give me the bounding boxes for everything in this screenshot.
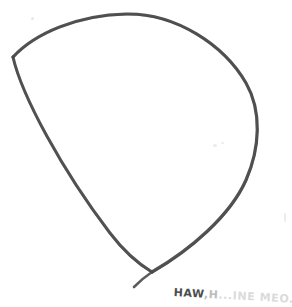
hand-drawn-teardrop-shape	[0, 0, 292, 307]
paper-background	[0, 0, 292, 307]
sketch-canvas: HAW,H...INE MEO...	[0, 0, 292, 307]
